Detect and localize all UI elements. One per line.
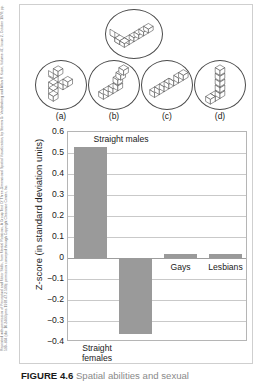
figure-caption: FIGURE 4.6 Spatial abilities and sexual xyxy=(21,370,257,381)
zero-line xyxy=(68,258,246,259)
y-axis-tick: 0.4 xyxy=(38,168,64,178)
mental-rotation-stimuli: (a) (b) (c) (d) xyxy=(20,7,254,129)
mental-rotation-option-b[interactable] xyxy=(88,60,140,110)
y-axis-tick: −0.4 xyxy=(38,336,64,346)
figure-caption-number: FIGURE 4.6 xyxy=(21,370,73,381)
bar-straight-females xyxy=(119,258,152,334)
y-axis-tick: 0.3 xyxy=(38,189,64,199)
mental-rotation-target-figure xyxy=(105,9,163,59)
y-axis-tick: −0.1 xyxy=(38,273,64,283)
bar-gays xyxy=(164,254,197,258)
mental-rotation-option-c[interactable] xyxy=(141,60,193,110)
y-axis-tick: −0.2 xyxy=(38,294,64,304)
credit-line: Reprinted with permission of Perceptual … xyxy=(0,0,16,352)
gridline xyxy=(68,321,246,322)
bar-lesbians xyxy=(209,254,242,258)
x-label-straight-females: Straight females xyxy=(67,343,127,363)
mental-rotation-label-d: (d) xyxy=(194,111,246,121)
plot-area: Straight malesGaysLesbians xyxy=(67,131,247,341)
mental-rotation-label-c: (c) xyxy=(141,111,193,121)
y-axis-tick: 0.2 xyxy=(38,210,64,220)
gridline xyxy=(68,279,246,280)
y-axis-tick: 0.6 xyxy=(38,126,64,136)
y-axis-tick: −0.3 xyxy=(38,315,64,325)
figure-caption-text: Spatial abilities and sexual xyxy=(76,370,189,381)
gridline xyxy=(68,300,246,301)
bar-label-straight-males: Straight males xyxy=(76,134,166,144)
y-axis-tick-labels: 0.60.50.40.30.20.10−0.1−0.2−0.3−0.4 xyxy=(38,131,64,341)
mental-rotation-option-d[interactable] xyxy=(194,60,246,110)
figure-panel: (a) (b) (c) (d) Z-score (in standard dev… xyxy=(19,4,253,364)
mental-rotation-label-b: (b) xyxy=(88,111,140,121)
bar-straight-males xyxy=(74,147,107,258)
mental-rotation-option-a[interactable] xyxy=(35,60,87,110)
y-axis-tick: 0.1 xyxy=(38,231,64,241)
y-axis-tick: 0 xyxy=(38,252,64,262)
credit-line-text: Reprinted with permission of Perceptual … xyxy=(0,0,9,352)
bar-chart: Z-score (in standard deviation units) 0.… xyxy=(20,131,254,363)
bar-label-gays: Gays xyxy=(159,262,203,272)
x-label-straight-females-line2: females xyxy=(67,353,127,363)
x-label-straight-females-line1: Straight xyxy=(67,343,127,353)
mental-rotation-label-a: (a) xyxy=(35,111,87,121)
y-axis-tick: 0.5 xyxy=(38,147,64,157)
bar-label-lesbians: Lesbians xyxy=(200,262,248,272)
